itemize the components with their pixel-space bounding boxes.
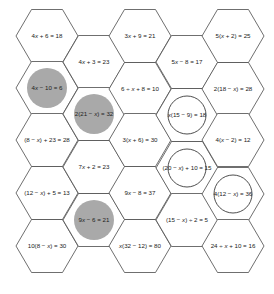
equation-text-c4r1: 2(18 − x) = 28 [214, 85, 253, 92]
equation-text-c2r4: x(32 − 12) = 80 [118, 242, 162, 249]
equation-text-c2r3: 9x − 8 = 37 [125, 189, 157, 196]
equation-text-c3r2: (20 − x) + 10 = 15 [162, 164, 212, 171]
equation-text-c4r0: 5(x + 2) = 25 [215, 32, 251, 39]
equation-text-c1r1: 2(21 − x) = 32 [75, 110, 114, 117]
equation-text-c4r2: 4(x − 2) = 12 [215, 136, 251, 143]
equation-text-c4r4: 24 ÷ x + 10 = 16 [211, 242, 256, 249]
equation-text-c3r1: x(15 − 9) = 18 [167, 111, 207, 118]
equation-text-c3r3: (15 − x) ÷ 2 = 5 [166, 216, 208, 223]
equation-text-c1r2: 7x + 2 = 23 [79, 163, 111, 170]
hexagon-equation-grid: 4x + 6 = 184x − 10 = 6(8 − x) + 23 = 28(… [0, 0, 274, 294]
equation-text-c4r3: 4(12 − x) = 36 [214, 190, 253, 197]
equation-text-c0r1: 4x − 10 = 6 [32, 84, 64, 91]
equation-text-c2r2: 3(x + 6) = 30 [122, 136, 158, 143]
equation-text-c0r4: 10(8 − x) = 30 [28, 242, 67, 249]
equation-text-c2r0: 3x + 9 = 21 [125, 32, 157, 39]
equation-text-c2r1: 6 ÷ x + 8 = 10 [121, 85, 159, 92]
equation-text-c3r0: 5x − 8 = 17 [172, 58, 204, 65]
equation-text-c0r0: 4x + 6 = 18 [32, 32, 64, 39]
equation-text-c0r3: (12 − x) + 5 = 13 [24, 189, 70, 196]
hex-cells-layer: 4x + 6 = 184x − 10 = 6(8 − x) + 23 = 28(… [16, 10, 264, 273]
equation-text-c0r2: (8 − x) + 23 = 28 [24, 136, 70, 143]
equation-text-c1r3: 9x − 6 = 21 [79, 216, 111, 223]
equation-text-c1r0: 4x + 3 = 23 [79, 58, 111, 65]
